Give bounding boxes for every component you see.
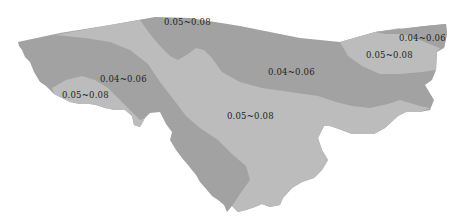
zone-label-far-right-top: 0.04~0.06 bbox=[399, 33, 446, 43]
zone-label-center-bottom: 0.05~0.08 bbox=[227, 111, 274, 121]
zone-label-left-bottom: 0.05~0.08 bbox=[62, 90, 109, 100]
zone-label-left-middle: 0.04~0.06 bbox=[100, 74, 147, 84]
zone-label-center-right: 0.04~0.06 bbox=[268, 67, 315, 77]
zone-label-far-right-mid: 0.05~0.08 bbox=[366, 50, 413, 60]
zone-label-top-center: 0.05~0.08 bbox=[164, 17, 211, 27]
